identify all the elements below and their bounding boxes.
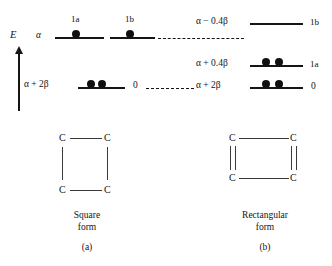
rectangle-caption-line1: Rectangular (224, 209, 306, 221)
square-atom-bottom-left: C (58, 185, 67, 195)
mo-energy-diagram-figure: E α 1a 1b α + 2β 0 α − 0.4β 1b α + 0.4β … (0, 0, 332, 266)
left-mo-label-1a: 1a (71, 15, 80, 24)
left-level-bar-1a (55, 37, 104, 39)
square-bond-right (107, 147, 108, 180)
rectangle-atom-bottom-right: C (289, 173, 298, 183)
rectangle-caption-line2: form (224, 221, 306, 233)
electron-lowest-left (87, 80, 95, 88)
correlation-dash-lowest (146, 88, 194, 89)
right-mo-label-1b: 1b (310, 18, 319, 27)
energy-axis-label: E (10, 30, 16, 41)
square-atom-top-right: C (103, 133, 112, 143)
panel-letter-a: (a) (47, 243, 127, 253)
rectangle-atom-bottom-left: C (228, 173, 237, 183)
panel-letter-b: (b) (224, 243, 306, 253)
electron-1b-single (126, 30, 134, 38)
energy-axis-shaft (18, 53, 20, 111)
left-level-bar-1b (110, 37, 155, 39)
rectangle-atom-top-left: C (228, 133, 237, 143)
right-mo-label-1a: 1a (310, 60, 319, 69)
right-mo-label-lowest: 0 (311, 82, 316, 92)
rectangle-bond-bottom (239, 178, 289, 179)
left-level-alpha2beta-energy-label: α + 2β (24, 80, 49, 90)
rectangular-molecule: C C C C (228, 133, 300, 185)
square-bond-bottom (70, 190, 102, 191)
right-level-top-energy-label: α − 0.4β (196, 17, 228, 27)
rectangle-atom-top-right: C (289, 133, 298, 143)
square-caption-line1: Square (47, 209, 127, 221)
correlation-dash-alpha (158, 38, 244, 39)
electron-1a-pair-left (262, 58, 270, 66)
right-level-bar-1b (250, 23, 303, 25)
rectangle-double-bond-left (230, 146, 236, 170)
square-atom-top-left: C (58, 133, 67, 143)
electron-lowest-pair-right (275, 80, 283, 88)
square-caption-line2: form (47, 221, 127, 233)
right-level-mid-energy-label: α + 0.4β (196, 59, 228, 69)
right-level-bottom-energy-label: α + 2β (196, 81, 221, 91)
square-molecule: C C C C (58, 133, 116, 195)
left-level-lowest-mo-label: 0 (133, 81, 138, 91)
rectangle-double-bond-right (291, 146, 297, 170)
rectangle-bond-top (239, 138, 289, 139)
square-atom-bottom-right: C (103, 185, 112, 195)
square-bond-top (70, 138, 102, 139)
electron-lowest-right (98, 80, 106, 88)
electron-1a-pair-right (275, 58, 283, 66)
left-level-alpha-energy-label: α (36, 31, 41, 41)
square-bond-left (62, 147, 63, 180)
electron-1a-single (72, 30, 80, 38)
electron-lowest-pair-left (262, 80, 270, 88)
left-mo-label-1b: 1b (125, 15, 134, 24)
